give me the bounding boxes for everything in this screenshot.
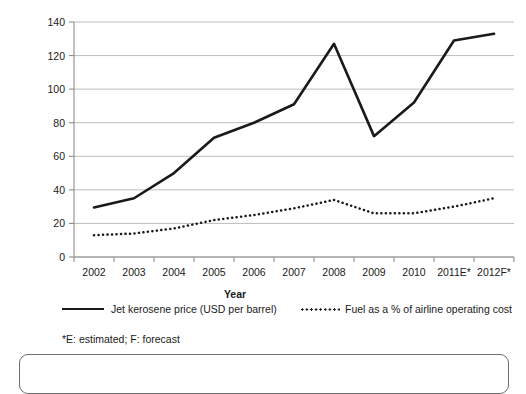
x-axis-tick-label: 2002 <box>82 266 106 278</box>
y-axis-tick-label: 140 <box>47 16 65 28</box>
legend-label-fuel-percentage: Fuel as a % of airline operating cost <box>345 303 512 315</box>
dotted-line-swatch-icon <box>300 308 340 311</box>
y-axis-tick-labels-group: 020406080100120140 <box>47 16 65 263</box>
legend-item-fuel-percentage: Fuel as a % of airline operating cost <box>300 303 512 315</box>
x-axis-tick-label: 2006 <box>242 266 266 278</box>
y-axis-ticks-group <box>69 22 74 257</box>
bottom-panel-outline <box>19 354 509 394</box>
y-axis-tick-label: 40 <box>53 184 65 196</box>
x-axis-tick-label: 2004 <box>162 266 186 278</box>
legend-item-jet-kerosene-price: Jet kerosene price (USD per barrel) <box>62 303 277 315</box>
chart-plot-area: 020406080100120140 200220032004200520062… <box>0 0 526 290</box>
y-axis-tick-label: 80 <box>53 117 65 129</box>
x-axis-ticks-group <box>74 257 514 262</box>
y-axis-tick-label: 20 <box>53 217 65 229</box>
x-axis-tick-label: 2012F* <box>477 266 511 278</box>
x-axis-tick-label: 2005 <box>202 266 226 278</box>
x-axis-tick-labels-group: 2002200320042005200620072008200920102011… <box>82 266 511 278</box>
y-axis-tick-label: 0 <box>59 251 65 263</box>
y-axis-tick-label: 120 <box>47 50 65 62</box>
series-line-jet-kerosene-price <box>94 34 494 208</box>
x-axis-tick-label: 2008 <box>322 266 346 278</box>
x-axis-tick-label: 2003 <box>122 266 146 278</box>
x-axis-tick-label: 2010 <box>402 266 426 278</box>
x-axis-title: Year <box>0 288 470 300</box>
line-chart-svg: 020406080100120140 200220032004200520062… <box>0 0 526 290</box>
y-axis-tick-label: 60 <box>53 150 65 162</box>
series-line-fuel-percentage <box>94 198 494 235</box>
x-axis-tick-label: 2007 <box>282 266 306 278</box>
x-axis-tick-label: 2009 <box>362 266 386 278</box>
chart-footnote: *E: estimated; F: forecast <box>62 333 180 345</box>
chart-legend: Jet kerosene price (USD per barrel) Fuel… <box>0 303 526 325</box>
gridlines-group <box>74 22 514 257</box>
legend-label-jet-kerosene-price: Jet kerosene price (USD per barrel) <box>111 303 277 315</box>
solid-line-swatch-icon <box>62 308 104 310</box>
y-axis-tick-label: 100 <box>47 83 65 95</box>
x-axis-tick-label: 2011E* <box>437 266 471 278</box>
